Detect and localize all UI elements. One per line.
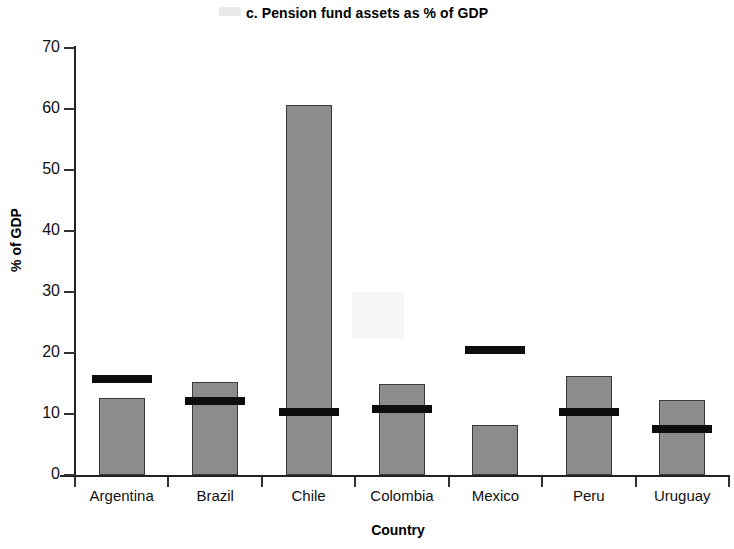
y-axis-tick-label: 40	[12, 222, 60, 238]
bar-colombia	[379, 384, 425, 476]
marker-uruguay	[652, 425, 712, 433]
bar-chile	[286, 105, 332, 475]
x-axis-line	[60, 475, 730, 477]
x-axis-tick	[728, 477, 730, 487]
x-axis-tick	[635, 477, 637, 487]
bar-peru	[566, 376, 612, 475]
y-axis-tick-label: 20	[12, 344, 60, 360]
x-axis-title: Country	[68, 522, 728, 538]
y-axis-tick-label: 60	[12, 100, 60, 116]
bar-mexico	[472, 425, 518, 475]
x-axis-tick	[541, 477, 543, 487]
chart-figure: c. Pension fund assets as % of GDP % of …	[0, 0, 734, 549]
marker-brazil	[185, 397, 245, 405]
x-axis-category-label: Brazil	[168, 487, 261, 505]
y-axis-tick-label: 30	[12, 283, 60, 299]
x-axis-tick	[354, 477, 356, 487]
x-axis-tick	[74, 477, 76, 487]
x-axis-category-label: Mexico	[449, 487, 542, 505]
x-axis-category-label: Peru	[542, 487, 635, 505]
x-axis-category-label: Colombia	[355, 487, 448, 505]
y-axis-tick-label: 70	[12, 39, 60, 55]
y-axis-tick-label: 10	[12, 405, 60, 421]
marker-chile	[279, 408, 339, 416]
marker-colombia	[372, 405, 432, 413]
y-axis-tick-label-text: 70	[20, 39, 60, 55]
y-axis-tick-label-text: 40	[20, 222, 60, 238]
x-axis-tick	[448, 477, 450, 487]
y-axis-title: % of GDP	[8, 190, 24, 290]
y-axis-tick-label: 0	[12, 466, 60, 482]
y-axis-tick-label-text: 30	[20, 283, 60, 299]
marker-argentina	[92, 375, 152, 383]
y-axis-tick-label-text: 10	[20, 405, 60, 421]
bar-argentina	[99, 398, 145, 475]
x-axis-tick	[261, 477, 263, 487]
y-axis-tick-label-text: 50	[20, 161, 60, 177]
y-axis-tick-label-text: 0	[20, 466, 60, 482]
bar-uruguay	[659, 400, 705, 475]
x-axis-category-label: Argentina	[75, 487, 168, 505]
bar-brazil	[192, 382, 238, 475]
x-axis-tick	[167, 477, 169, 487]
chart-title: c. Pension fund assets as % of GDP	[0, 5, 734, 21]
x-axis-category-label: Chile	[262, 487, 355, 505]
y-axis-tick-label-text: 60	[20, 100, 60, 116]
plot-area	[74, 48, 729, 475]
marker-mexico	[465, 346, 525, 354]
x-axis-category-label: Uruguay	[636, 487, 729, 505]
y-axis-tick-label: 50	[12, 161, 60, 177]
marker-peru	[559, 408, 619, 416]
y-axis-tick-label-text: 20	[20, 344, 60, 360]
